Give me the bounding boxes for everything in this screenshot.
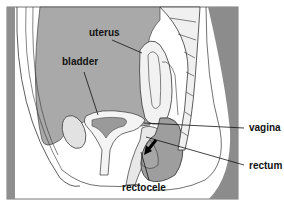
label-rectum: rectum — [249, 160, 282, 171]
label-bladder: bladder — [62, 56, 98, 67]
anatomy-diagram: uterus bladder vagina rectum rectocele — [0, 0, 284, 206]
label-uterus: uterus — [89, 27, 120, 38]
label-vagina: vagina — [249, 122, 281, 133]
abdominal-wall — [7, 7, 15, 199]
label-rectocele: rectocele — [122, 182, 166, 193]
